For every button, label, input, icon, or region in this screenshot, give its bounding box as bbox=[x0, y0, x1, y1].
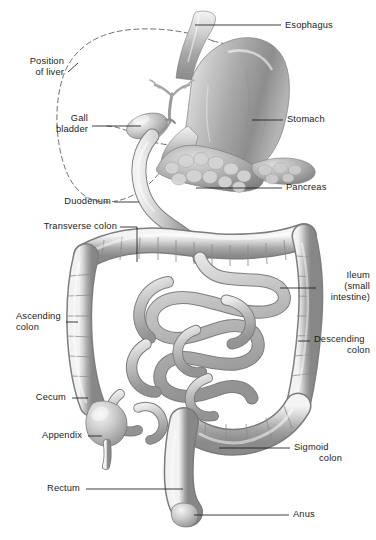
label-position-of-liver-line1: Position bbox=[0, 56, 64, 67]
label-position-of-liver-line2: of liver bbox=[0, 67, 64, 78]
label-esophagus: Esophagus bbox=[285, 20, 333, 31]
label-ascending-colon-line1: Ascending bbox=[16, 311, 61, 322]
label-stomach: Stomach bbox=[287, 114, 325, 125]
label-ileum-line3: intestine) bbox=[300, 292, 370, 303]
descending-colon-organ bbox=[291, 236, 321, 406]
label-cecum: Cecum bbox=[0, 392, 66, 403]
label-transverse-colon: Transverse colon bbox=[0, 221, 117, 232]
label-gall-bladder-line2: bladder bbox=[0, 124, 88, 135]
label-rectum: Rectum bbox=[0, 483, 80, 494]
label-sigmoid-colon-line2: colon bbox=[294, 453, 342, 464]
label-ascending-colon-line2: colon bbox=[16, 322, 39, 333]
ascending-colon-organ bbox=[67, 256, 96, 404]
digestive-system-figure: Esophagus Position of liver Stomach Gall… bbox=[0, 0, 376, 540]
label-pancreas: Pancreas bbox=[286, 182, 326, 193]
rectum-organ bbox=[172, 422, 188, 514]
label-appendix: Appendix bbox=[0, 430, 82, 441]
label-sigmoid-colon-line1: Sigmoid bbox=[294, 442, 329, 453]
label-ileum-line1: Ileum bbox=[300, 270, 370, 281]
appendix-organ bbox=[106, 443, 108, 466]
label-anus: Anus bbox=[293, 509, 315, 520]
label-duodenum: Duodenum bbox=[0, 196, 111, 207]
label-gall-bladder-line1: Gall bbox=[0, 113, 88, 124]
label-descending-colon-line1: Descending bbox=[314, 334, 365, 345]
label-descending-colon-line2: colon bbox=[314, 345, 370, 356]
leader-position-of-liver bbox=[68, 63, 78, 72]
label-ileum-line2: (small bbox=[300, 281, 370, 292]
